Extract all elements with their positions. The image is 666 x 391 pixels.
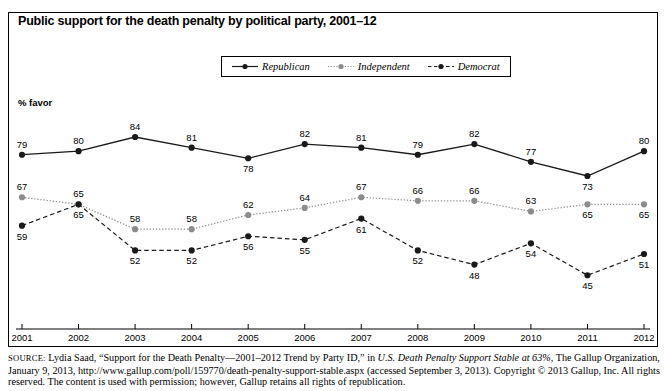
series-lines xyxy=(22,137,644,275)
x-axis-tick-label: 2011 xyxy=(577,332,597,343)
data-point-marker[interactable] xyxy=(584,272,590,278)
data-point-label: 64 xyxy=(299,192,310,203)
data-point-marker[interactable] xyxy=(132,226,138,232)
x-axis-tick-labels: 2001200220032004200520062007200820092010… xyxy=(11,332,654,343)
series-line-independent xyxy=(22,197,644,229)
data-point-label: 81 xyxy=(186,132,197,143)
axis-group xyxy=(16,324,650,329)
series-line-republican xyxy=(22,137,644,176)
data-point-marker[interactable] xyxy=(641,201,647,207)
data-point-marker[interactable] xyxy=(641,251,647,257)
data-point-marker[interactable] xyxy=(358,145,364,151)
data-point-marker[interactable] xyxy=(302,141,308,147)
data-point-label: 48 xyxy=(469,270,480,281)
data-point-label: 67 xyxy=(356,181,367,192)
data-point-marker[interactable] xyxy=(641,148,647,154)
data-point-label: 84 xyxy=(130,121,141,132)
data-point-label: 82 xyxy=(469,128,480,139)
data-point-marker[interactable] xyxy=(528,159,534,165)
data-point-marker[interactable] xyxy=(189,145,195,151)
series-line-democrat xyxy=(22,204,644,275)
data-point-label: 66 xyxy=(469,185,480,196)
data-point-label: 73 xyxy=(582,181,593,192)
x-axis-tick-label: 2005 xyxy=(238,332,259,343)
data-point-label: 80 xyxy=(639,135,650,146)
data-point-label: 65 xyxy=(73,188,84,199)
data-point-label: 59 xyxy=(17,231,28,242)
data-point-marker[interactable] xyxy=(471,262,477,268)
data-point-label: 67 xyxy=(17,181,28,192)
x-axis-tick-label: 2004 xyxy=(181,332,202,343)
data-point-label: 79 xyxy=(17,139,28,150)
data-point-label: 45 xyxy=(582,280,593,291)
data-point-marker[interactable] xyxy=(471,141,477,147)
data-point-marker[interactable] xyxy=(528,240,534,246)
data-point-marker[interactable] xyxy=(584,201,590,207)
source-label: SOURCE: xyxy=(8,353,46,363)
data-point-label: 65 xyxy=(639,209,650,220)
data-point-marker[interactable] xyxy=(245,233,251,239)
data-point-label: 51 xyxy=(639,259,650,270)
data-point-marker[interactable] xyxy=(189,226,195,232)
data-point-marker[interactable] xyxy=(528,208,534,214)
data-point-label: 77 xyxy=(526,146,537,157)
x-axis-tick-label: 2006 xyxy=(294,332,315,343)
x-axis-tick-label: 2010 xyxy=(520,332,541,343)
x-axis-tick-label: 2003 xyxy=(125,332,146,343)
data-point-label: 62 xyxy=(243,199,254,210)
data-point-label: 80 xyxy=(73,135,84,146)
data-point-label: 81 xyxy=(356,132,367,143)
data-point-label: 66 xyxy=(413,185,424,196)
source-note: SOURCE: Lydia Saad, “Support for the Dea… xyxy=(8,352,660,388)
chart-plot-area: 7980848178828179827773806765585862646766… xyxy=(0,0,666,391)
x-axis-tick-label: 2008 xyxy=(407,332,428,343)
data-point-label: 79 xyxy=(413,139,424,150)
data-point-marker[interactable] xyxy=(415,198,421,204)
x-axis-tick-label: 2002 xyxy=(68,332,89,343)
data-point-label: 65 xyxy=(73,209,84,220)
data-point-label: 65 xyxy=(582,209,593,220)
data-point-label: 63 xyxy=(526,195,537,206)
data-point-label: 52 xyxy=(413,255,424,266)
data-point-label: 52 xyxy=(186,255,197,266)
data-point-marker[interactable] xyxy=(302,205,308,211)
data-point-marker[interactable] xyxy=(75,201,81,207)
data-point-marker[interactable] xyxy=(415,247,421,253)
x-axis-tick-label: 2012 xyxy=(633,332,654,343)
x-axis-tick-label: 2007 xyxy=(351,332,372,343)
source-title-italic: U.S. Death Penalty Support Stable at 63% xyxy=(378,352,551,363)
data-point-markers xyxy=(19,134,647,278)
data-point-label: 55 xyxy=(299,245,310,256)
data-point-label: 82 xyxy=(299,128,310,139)
data-point-marker[interactable] xyxy=(132,247,138,253)
data-point-marker[interactable] xyxy=(19,152,25,158)
data-point-marker[interactable] xyxy=(358,215,364,221)
data-point-marker[interactable] xyxy=(19,223,25,229)
source-text-a: Lydia Saad, “Support for the Death Penal… xyxy=(46,352,378,363)
data-point-marker[interactable] xyxy=(471,198,477,204)
chart-figure: Public support for the death penalty by … xyxy=(0,0,666,391)
data-point-marker[interactable] xyxy=(415,152,421,158)
data-point-label: 52 xyxy=(130,255,141,266)
data-point-marker[interactable] xyxy=(132,134,138,140)
data-point-marker[interactable] xyxy=(189,247,195,253)
data-point-marker[interactable] xyxy=(584,173,590,179)
data-point-marker[interactable] xyxy=(245,212,251,218)
x-axis-tick-label: 2009 xyxy=(464,332,485,343)
data-point-label: 54 xyxy=(526,248,537,259)
data-point-label: 58 xyxy=(186,213,197,224)
x-axis-tick-label: 2001 xyxy=(11,332,32,343)
data-point-marker[interactable] xyxy=(19,194,25,200)
data-point-marker[interactable] xyxy=(75,148,81,154)
data-point-label: 58 xyxy=(130,213,141,224)
data-point-label: 61 xyxy=(356,224,367,235)
data-point-label: 56 xyxy=(243,241,254,252)
data-point-marker[interactable] xyxy=(245,155,251,161)
data-point-labels: 7980848178828179827773806765585862646766… xyxy=(17,121,650,291)
data-point-label: 78 xyxy=(243,163,254,174)
data-point-marker[interactable] xyxy=(302,237,308,243)
data-point-marker[interactable] xyxy=(358,194,364,200)
